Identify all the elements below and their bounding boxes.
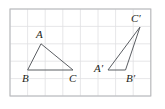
label-c: C	[69, 72, 77, 84]
label-b-prime: B′	[126, 72, 136, 84]
label-b: B	[22, 72, 29, 84]
label-c-prime: C′	[131, 12, 141, 24]
label-a: A	[35, 28, 43, 40]
label-a-prime: A′	[93, 62, 104, 74]
figure-canvas: A B C A′ B′ C′	[0, 0, 165, 109]
geometry-figure: A B C A′ B′ C′	[0, 0, 165, 109]
